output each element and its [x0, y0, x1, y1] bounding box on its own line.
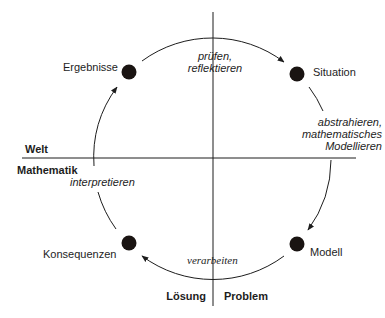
edge-label-pruefen-reflektieren: prüfen, reflektieren: [160, 50, 270, 74]
arrow-situation-to-modell: [308, 160, 331, 230]
arrow-situation-start: [309, 87, 323, 111]
node-label-modell: Modell: [310, 246, 342, 258]
node-dot-ergebnisse: [122, 65, 137, 80]
diagram-graphics: [0, 0, 385, 318]
domain-label-loesung: Lösung: [150, 290, 206, 302]
node-label-ergebnisse: Ergebnisse: [48, 61, 118, 73]
node-label-situation: Situation: [313, 66, 356, 78]
domain-label-problem: Problem: [224, 290, 268, 302]
node-dot-modell: [290, 237, 305, 252]
edge-label-verarbeiten: verarbeiten: [187, 254, 238, 266]
edge-label-interpretieren: interpretieren: [70, 176, 135, 188]
node-dot-situation: [290, 67, 305, 82]
arrow-konsequenzen-to-ergebnisse: [94, 87, 117, 166]
node-label-konsequenzen: Konsequenzen: [43, 248, 116, 260]
edge-label-line: abstrahieren,: [270, 116, 382, 128]
node-dot-konsequenzen: [122, 236, 137, 251]
edge-label-line: reflektieren: [160, 62, 270, 74]
edge-label-abstrahieren: abstrahieren, mathematisches Modellieren: [270, 116, 382, 152]
arrow-konsequenzen-start: [98, 192, 116, 229]
domain-label-welt: Welt: [25, 143, 48, 155]
edge-label-line: mathematisches: [270, 128, 382, 140]
modelling-cycle-diagram: Ergebnisse Situation Modell Konsequenzen…: [0, 0, 385, 318]
domain-label-mathematik: Mathematik: [17, 164, 78, 176]
edge-label-line: prüfen,: [160, 50, 270, 62]
edge-label-line: Modellieren: [270, 140, 382, 152]
